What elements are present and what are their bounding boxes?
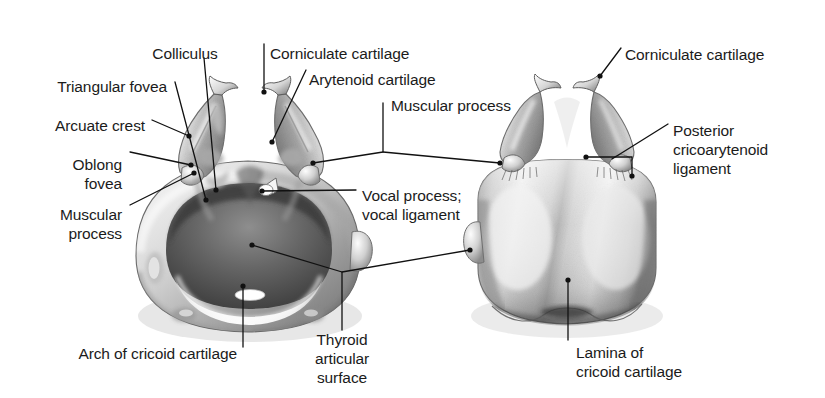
dot-muscular-process-l [310,160,315,165]
leader-arcuate-crest [152,120,189,136]
label-corniculate-cartilage-left: Corniculate cartilage [270,44,409,63]
label-posterior-cricoarytenoid-ligament: Posterior cricoarytenoid ligament [673,121,768,178]
leader-corniculate-cartilage-right [600,48,621,76]
dot-arcuate-crest [186,133,191,138]
leader-muscular-process-center-r [383,152,500,163]
dot-thyroid-art-left [249,242,254,247]
label-lamina-of-cricoid-cartilage: Lamina of cricoid cartilage [576,343,682,381]
label-vocal-process-vocal-ligament: Vocal process; vocal ligament [362,186,461,224]
dot-vocal-process [259,188,264,193]
label-thyroid-articular-surface: Thyroid articular surface [315,330,369,387]
label-oblong-fovea: Oblong fovea [73,155,122,193]
dot-arytenoid-cartilage [269,139,274,144]
label-triangular-fovea: Triangular fovea [57,77,167,96]
label-corniculate-cartilage-right: Corniculate cartilage [625,45,764,64]
dot-thyroid-art-right [467,247,472,252]
dot-corniculate-right [597,73,602,78]
dot-muscular-process-r [497,160,502,165]
dot-arch-of-cricoid [240,283,245,288]
dot-muscular-process-left [191,170,196,175]
dot-lamina-of-cricoid [565,277,570,282]
dot-corniculate-left [261,89,266,94]
dot-triangular-fovea [203,197,208,202]
label-arch-of-cricoid-cartilage: Arch of cricoid cartilage [78,344,237,363]
label-muscular-process-center: Muscular process [391,96,511,115]
label-arytenoid-cartilage: Arytenoid cartilage [309,70,435,89]
dot-colliculus [213,187,218,192]
anterior-cricoid-view [136,76,372,342]
label-arcuate-crest: Arcuate crest [55,116,145,135]
dot-pcl-lower [629,173,634,178]
dot-oblong-fovea [188,162,193,167]
label-muscular-process-left: Muscular process [60,205,122,243]
dot-pcl-upper [583,154,588,159]
cricoid-lamina [464,160,656,325]
anatomy-figure: Colliculus Triangular fovea Arcuate cres… [0,0,825,398]
label-colliculus: Colliculus [152,44,217,63]
leader-muscular-process-center [313,103,383,163]
